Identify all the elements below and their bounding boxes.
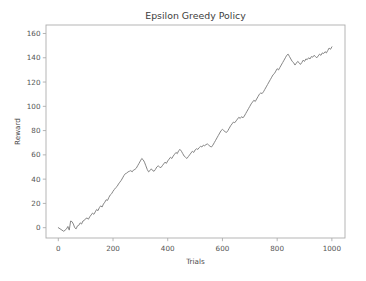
x-tick-label: 1000 [323, 244, 342, 253]
x-tick-label: 200 [106, 244, 120, 253]
y-tick-label: 0 [36, 223, 41, 232]
y-tick-label: 100 [27, 102, 41, 111]
figure-background [0, 0, 366, 281]
chart-figure: Epsilon Greedy Policy 02004006008001000 … [0, 0, 366, 281]
x-tick-label: 800 [270, 244, 284, 253]
y-tick-label: 80 [31, 126, 41, 135]
chart-title: Epsilon Greedy Policy [145, 10, 246, 21]
x-tick-label: 400 [161, 244, 175, 253]
line-chart: Epsilon Greedy Policy 02004006008001000 … [0, 0, 366, 281]
y-tick-label: 60 [31, 150, 41, 159]
y-tick-label: 120 [27, 78, 41, 87]
x-axis-title: Trials [185, 257, 205, 266]
y-tick-label: 40 [31, 175, 41, 184]
y-tick-label: 160 [27, 29, 41, 38]
x-tick-label: 600 [216, 244, 230, 253]
y-tick-label: 140 [27, 53, 41, 62]
y-tick-label: 20 [31, 199, 41, 208]
y-axis-title: Reward [13, 118, 22, 145]
x-tick-label: 0 [56, 244, 61, 253]
